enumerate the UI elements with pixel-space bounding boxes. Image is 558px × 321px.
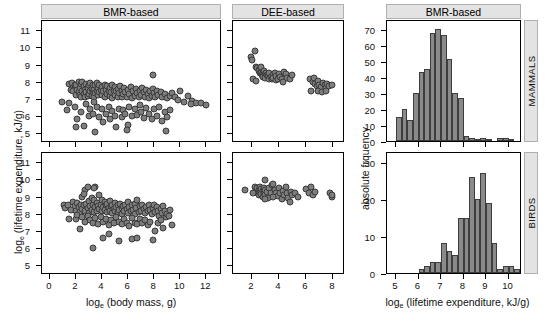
y-tick: [36, 116, 41, 117]
y-tick: [36, 133, 41, 134]
y-tick: [36, 47, 41, 48]
column-strip-2: BMR-based: [386, 4, 521, 19]
x-tick-label: 9: [482, 280, 487, 291]
y-tick: [227, 265, 232, 266]
y-tick-label: 8: [25, 76, 30, 87]
x-tick: [395, 274, 396, 279]
x-tick-label: 6: [302, 280, 307, 291]
data-point: [262, 176, 269, 183]
y-tick: [381, 163, 386, 164]
histogram-bar: [514, 269, 520, 273]
y-tick: [36, 265, 41, 266]
x-tick-label: 8: [460, 280, 465, 291]
data-point: [92, 128, 99, 135]
data-point: [74, 115, 81, 122]
x-tick: [508, 142, 509, 147]
histogram-bar: [509, 139, 515, 141]
y-tick: [227, 47, 232, 48]
hist-y-axis-title: absolute frquency: [359, 127, 371, 210]
y-tick: [227, 82, 232, 83]
data-point: [279, 79, 286, 86]
data-point: [162, 127, 169, 134]
data-point: [113, 123, 120, 130]
x-tick: [205, 274, 206, 279]
panel-mammals-bmr-scatter: [41, 20, 221, 142]
data-point: [80, 122, 87, 129]
data-point: [91, 185, 98, 192]
x-tick: [418, 142, 419, 147]
x-tick: [418, 274, 419, 279]
x-tick: [278, 142, 279, 147]
panel-birds-bmr-scatter: [41, 152, 221, 274]
x-tick: [440, 274, 441, 279]
y-tick: [381, 126, 386, 127]
x-tick: [127, 142, 128, 147]
x-axis-birds-bmr-scatter: 024681012: [41, 274, 221, 286]
y-tick-label: 7: [25, 94, 30, 105]
x-axis-birds-hist: 5678910: [386, 274, 521, 286]
row-strip-0: MAMMALS: [524, 20, 538, 142]
column-strip-label: DEE-based: [261, 6, 315, 18]
y-tick-label: 20: [364, 104, 375, 115]
y-axis-mammals-bmr-scatter: [31, 20, 41, 142]
data-point: [63, 107, 70, 114]
data-point: [251, 48, 258, 55]
hist-x-axis-title: loge (lifetime expenditure, kJ/g): [386, 296, 530, 308]
data-point: [66, 99, 73, 106]
y-tick: [227, 179, 232, 180]
y-tick: [36, 99, 41, 100]
data-point: [270, 193, 277, 200]
data-point: [323, 87, 330, 94]
y-tick: [36, 82, 41, 83]
x-tick: [508, 274, 509, 279]
y-tick-label: 40: [364, 72, 375, 83]
y-tick: [227, 231, 232, 232]
data-point: [289, 72, 296, 79]
y-tick: [227, 133, 232, 134]
data-point: [91, 98, 98, 105]
panel-birds-dee-scatter: [232, 152, 344, 274]
x-tick-label: 4: [275, 280, 280, 291]
y-axis-birds-hist: [376, 152, 386, 274]
y-tick-label: 6: [25, 111, 30, 122]
x-tick: [440, 142, 441, 147]
y-tick-label: 60: [364, 40, 375, 51]
y-tick-label: 8: [25, 208, 30, 219]
data-point: [169, 222, 176, 229]
panel-mammals-hist: [386, 20, 521, 142]
scatter-x-axis-title: loge (body mass, g): [86, 296, 176, 308]
x-tick: [305, 142, 306, 147]
y-tick: [227, 162, 232, 163]
y-tick-label: 70: [364, 24, 375, 35]
y-tick-label: 50: [364, 56, 375, 67]
y-tick: [381, 237, 386, 238]
x-tick: [278, 274, 279, 279]
data-point: [242, 186, 249, 193]
x-tick: [485, 142, 486, 147]
data-point: [58, 98, 65, 105]
data-point: [105, 230, 112, 237]
figure-panel-grid: BMR-basedDEE-basedBMR-basedMAMMALSBIRDS5…: [0, 0, 558, 321]
y-tick: [36, 214, 41, 215]
histogram-bar: [486, 139, 492, 141]
data-point: [312, 188, 319, 195]
y-axis-mammals-hist: [376, 20, 386, 142]
y-axis-birds-bmr-scatter: [31, 152, 41, 274]
y-axis-birds-dee-scatter: [222, 152, 232, 274]
data-point: [147, 218, 154, 225]
column-strip-label: BMR-based: [426, 6, 481, 18]
x-tick-label: 10: [174, 280, 185, 291]
y-tick: [227, 99, 232, 100]
x-tick: [179, 142, 180, 147]
x-tick: [332, 142, 333, 147]
y-tick: [36, 179, 41, 180]
x-tick: [127, 274, 128, 279]
data-point: [134, 235, 141, 242]
row-strip-1: BIRDS: [524, 152, 538, 274]
x-tick: [75, 274, 76, 279]
data-point: [149, 236, 156, 243]
x-tick: [179, 274, 180, 279]
data-point: [177, 88, 184, 95]
x-tick-label: 5: [392, 280, 397, 291]
y-tick-label: 5: [25, 260, 30, 271]
